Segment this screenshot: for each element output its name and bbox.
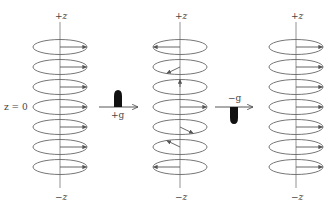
stack-after-negative-gradient: +z−z	[269, 11, 323, 202]
positive-gradient-label: +g	[111, 110, 125, 120]
stack-initial: +z−z	[33, 11, 87, 202]
magnetization-vector-icon	[167, 67, 180, 73]
magnetization-vector-icon	[167, 141, 180, 147]
diagram-canvas: +z−z +z−z +z−z z = 0 +g −g	[0, 0, 334, 212]
transition-positive-gradient: +g	[99, 90, 138, 120]
negative-gradient-label: −g	[228, 93, 242, 103]
magnetization-vector-icon	[180, 127, 193, 133]
stack-after-positive-gradient: +z−z	[153, 11, 207, 202]
axis-top-label: +z	[291, 11, 304, 21]
positive-gradient-pulse-icon	[114, 90, 122, 107]
axis-bottom-label: −z	[291, 192, 304, 202]
transition-negative-gradient: −g	[215, 93, 253, 124]
axis-top-label: +z	[175, 11, 188, 21]
axis-top-label: +z	[55, 11, 68, 21]
z-zero-label: z = 0	[4, 102, 28, 112]
axis-bottom-label: −z	[55, 192, 68, 202]
axis-bottom-label: −z	[175, 192, 188, 202]
negative-gradient-pulse-icon	[230, 107, 238, 124]
